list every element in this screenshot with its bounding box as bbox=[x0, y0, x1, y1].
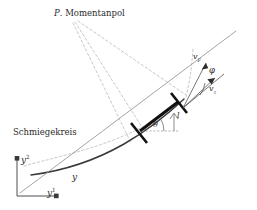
axis-y-arrow bbox=[15, 156, 20, 161]
velocity-f-label: vF bbox=[193, 53, 201, 63]
phi-symbol: φ bbox=[209, 65, 215, 75]
velocity-tau-sub: τ bbox=[214, 89, 217, 95]
velocity-aux-line bbox=[183, 74, 224, 108]
axis-y-label: y2 bbox=[21, 155, 30, 165]
curve-y-symbol: y bbox=[72, 172, 77, 182]
figure-canvas: P. Momentanpol Schmiegekreis y y1 y2 vF … bbox=[0, 0, 257, 210]
schmiegekreis-label: Schmiegekreis bbox=[13, 128, 77, 137]
tangent-line bbox=[20, 31, 236, 193]
axis-y-sup: 2 bbox=[26, 154, 30, 160]
theta-symbol: θ bbox=[153, 120, 158, 129]
bar-shaft bbox=[140, 102, 178, 131]
momentanpol-label: P. Momentanpol bbox=[54, 9, 125, 18]
length-label: l bbox=[177, 112, 180, 120]
velocity-vectors bbox=[183, 63, 224, 108]
pole-ray-left bbox=[73, 23, 131, 143]
length-symbol: l bbox=[177, 111, 180, 120]
pole-ray-mid bbox=[75, 22, 142, 127]
curve-y-label: y bbox=[72, 173, 77, 182]
velocity-f-arrowhead bbox=[202, 63, 209, 70]
velocity-tau-label: vτ bbox=[209, 85, 216, 95]
velocity-f-line bbox=[183, 63, 206, 108]
curve-y bbox=[31, 99, 184, 175]
momentanpol-rays bbox=[73, 21, 186, 143]
axis-x-sup: 1 bbox=[52, 187, 56, 193]
bar-cap-right bbox=[171, 93, 187, 113]
velocity-f-sub: F bbox=[198, 57, 201, 63]
theta-label: θ bbox=[153, 121, 158, 129]
phi-label: φ bbox=[209, 66, 215, 75]
momentanpol-text: Momentanpol bbox=[65, 8, 125, 18]
axis-x-label: y1 bbox=[47, 188, 56, 198]
diagram-svg bbox=[0, 0, 257, 210]
velocity-f-dashed-arc bbox=[186, 48, 193, 97]
pole-ray-right bbox=[78, 21, 186, 95]
